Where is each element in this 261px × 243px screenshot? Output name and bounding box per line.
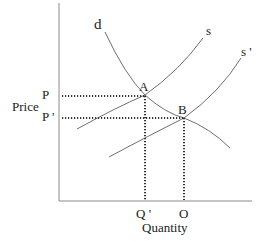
price-p-prime-label: P ' (42, 109, 54, 124)
supply-label: s (206, 23, 211, 38)
y-axis-label: Price (12, 99, 39, 114)
price-p-label: P (42, 87, 49, 102)
supply-shifted-curve (109, 58, 241, 157)
supply-shifted-label: s ' (241, 44, 252, 59)
point-a-label: A (139, 79, 149, 94)
quantity-o-label: O (179, 206, 188, 221)
x-axis-label: Quantity (142, 220, 188, 235)
quantity-q-prime-label: Q ' (136, 206, 151, 221)
point-b-label: B (178, 102, 187, 117)
supply-demand-diagram: d s s ' A B P P ' Price Q ' O Quantity (0, 0, 261, 243)
demand-curve (105, 32, 230, 148)
demand-label: d (94, 16, 102, 32)
